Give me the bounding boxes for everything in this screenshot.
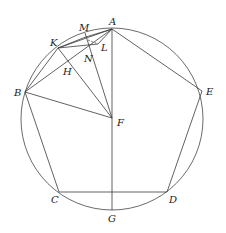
side-AB <box>25 29 112 92</box>
label-L: L <box>100 42 108 53</box>
side-EA <box>112 29 202 91</box>
label-B: B <box>13 87 21 98</box>
label-H: H <box>62 66 72 77</box>
label-K: K <box>49 37 58 48</box>
label-G: G <box>108 213 116 224</box>
segment-BF <box>25 92 112 118</box>
label-E: E <box>205 86 214 97</box>
segment-KB <box>25 48 58 92</box>
label-N: N <box>83 53 94 64</box>
label-F: F <box>116 117 125 128</box>
label-C: C <box>51 194 59 205</box>
label-A: A <box>108 16 116 27</box>
label-M: M <box>78 22 90 33</box>
label-D: D <box>168 194 177 205</box>
pentagon-circle-diagram: A B C D E F G K M L N H <box>0 0 226 233</box>
side-DE <box>167 91 202 192</box>
segment-MF <box>85 33 112 118</box>
